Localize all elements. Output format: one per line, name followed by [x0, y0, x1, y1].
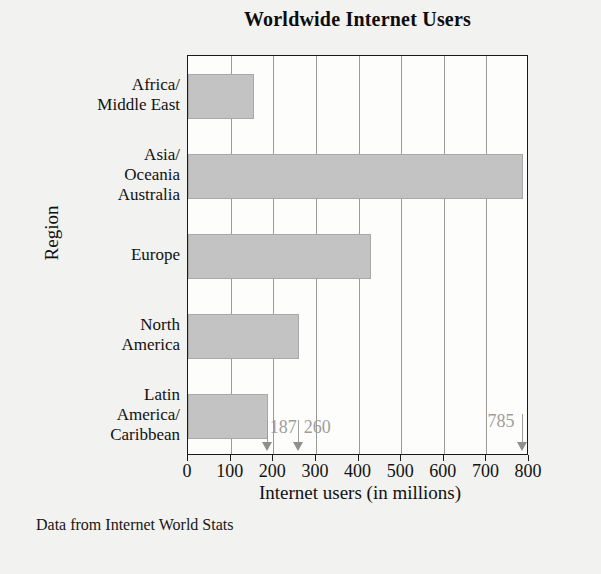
y-axis-category-label: LatinAmerica/Caribbean [30, 385, 180, 445]
chart-footnote: Data from Internet World Stats [36, 516, 233, 534]
annotation-stem [522, 414, 523, 442]
bar[interactable] [188, 394, 268, 439]
annotation-stem [298, 420, 299, 442]
annotation-arrow [262, 442, 272, 451]
bar[interactable] [188, 314, 299, 359]
annotation-stem [267, 420, 268, 442]
x-axis-ticks: 0100200300400500600700800 [187, 455, 528, 481]
chart-figure: Worldwide Internet Users Africa/Middle E… [0, 0, 601, 574]
x-axis-title: Internet users (in millions) [130, 482, 590, 504]
y-axis-category-label-line: Middle East [30, 95, 180, 115]
bar[interactable] [188, 74, 254, 119]
bar-row [188, 56, 529, 136]
annotation-value-label: 785 [488, 412, 515, 430]
y-axis-category-label-line: Latin [30, 385, 180, 405]
bar-row [188, 376, 529, 456]
annotation-arrow [293, 442, 303, 451]
chart-title: Worldwide Internet Users [187, 8, 528, 31]
bar-row [188, 136, 529, 216]
y-axis-category-label-line: America [30, 335, 180, 355]
y-axis-category-label-line: North [30, 315, 180, 335]
annotation-value-label: 260 [304, 418, 331, 436]
bar[interactable] [188, 234, 371, 279]
x-axis-tick-label: 800 [498, 461, 558, 482]
annotation-arrow [517, 442, 527, 451]
bar[interactable] [188, 154, 523, 199]
y-axis-category-label-line: America/ [30, 405, 180, 425]
bar-row [188, 296, 529, 376]
annotation-value-label: 187 [270, 418, 297, 436]
y-axis-category-label: Africa/Middle East [30, 75, 180, 115]
y-axis-category-label-line: Caribbean [30, 425, 180, 445]
plot-area [187, 55, 528, 455]
y-axis-category-label: NorthAmerica [30, 315, 180, 355]
bar-row [188, 216, 529, 296]
y-axis-category-label-line: Asia/ [30, 145, 180, 165]
y-axis-category-label-line: Africa/ [30, 75, 180, 95]
y-axis-title: Region [41, 173, 63, 293]
